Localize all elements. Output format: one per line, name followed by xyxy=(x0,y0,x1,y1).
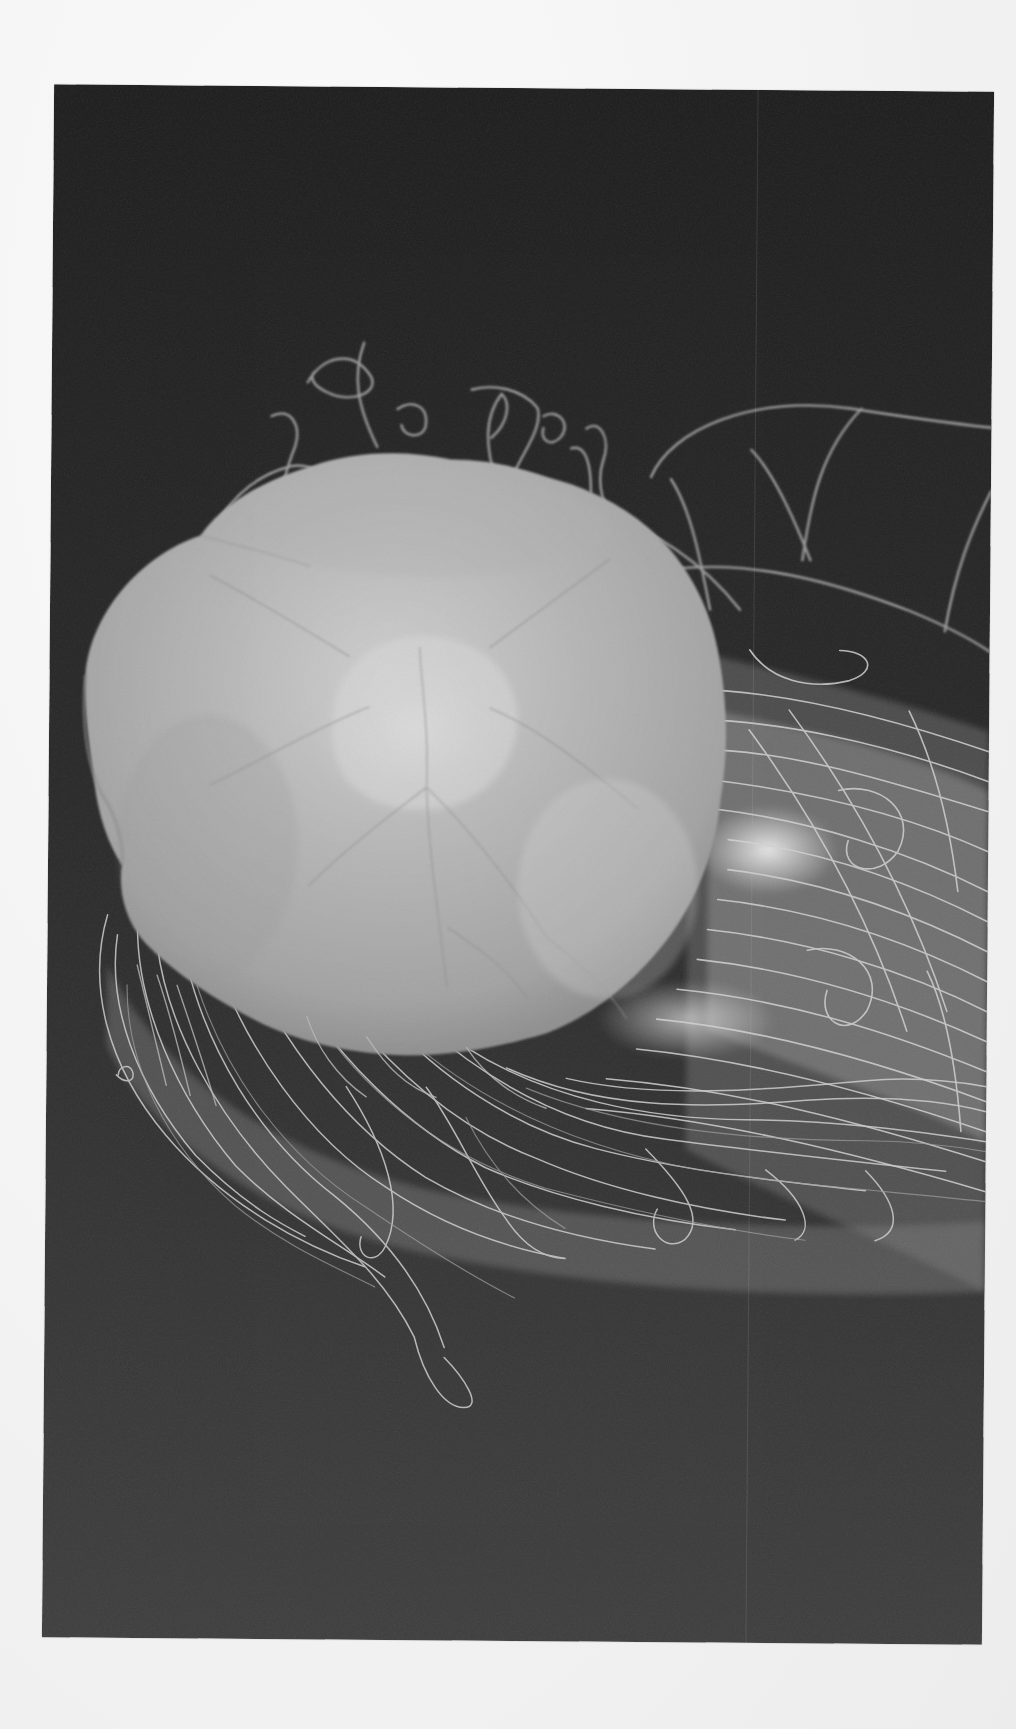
jellyfish-photo xyxy=(42,84,994,1644)
jellyfish-illustration xyxy=(42,84,994,1644)
film-grain xyxy=(42,84,994,1644)
scanned-paper xyxy=(0,0,1016,1729)
